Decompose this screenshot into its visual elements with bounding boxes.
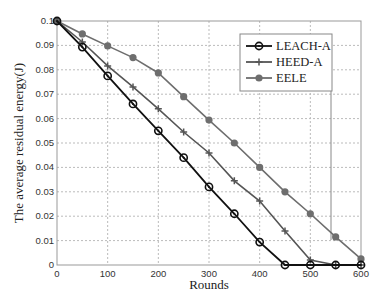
y-tick-label: 0.1 — [41, 15, 54, 26]
y-tick-label: 0.06 — [36, 113, 55, 124]
y-tick-label: 0.08 — [36, 64, 55, 75]
dot-marker-icon — [256, 164, 263, 171]
dot-marker-icon — [281, 188, 288, 195]
x-tick-label: 600 — [353, 268, 369, 279]
x-tick-label: 500 — [302, 268, 318, 279]
legend-label: EELE — [276, 71, 307, 85]
y-tick-label: 0 — [49, 259, 54, 270]
y-tick-label: 0.07 — [36, 88, 55, 99]
dot-marker-icon — [129, 54, 136, 61]
x-tick-label: 400 — [252, 268, 268, 279]
x-axis-label: Rounds — [189, 277, 229, 292]
x-tick-label: 0 — [54, 268, 59, 279]
line-chart: 00.010.020.030.040.050.060.070.080.090.1… — [0, 0, 389, 302]
y-axis-ticks: 00.010.020.030.040.050.060.070.080.090.1 — [36, 15, 55, 270]
dot-marker-icon — [180, 93, 187, 100]
y-axis-label: The average residual energy(J) — [11, 63, 26, 223]
x-tick-label: 200 — [150, 268, 166, 279]
dot-marker-icon — [255, 74, 262, 81]
y-tick-label: 0.01 — [36, 235, 55, 246]
dot-marker-icon — [307, 210, 314, 217]
y-tick-label: 0.09 — [36, 39, 55, 50]
dot-marker-icon — [155, 69, 162, 76]
y-tick-label: 0.02 — [36, 210, 55, 221]
y-tick-label: 0.03 — [36, 186, 55, 197]
y-tick-label: 0.05 — [36, 137, 55, 148]
legend: LEACH-AHEED-AEELE — [240, 34, 332, 91]
y-tick-label: 0.04 — [36, 161, 55, 172]
dot-marker-icon — [205, 116, 212, 123]
x-tick-label: 100 — [100, 268, 116, 279]
legend-label: LEACH-A — [276, 39, 331, 53]
dot-marker-icon — [104, 42, 111, 49]
dot-marker-icon — [231, 139, 238, 146]
dot-marker-icon — [79, 30, 86, 37]
legend-label: HEED-A — [276, 55, 323, 69]
dot-marker-icon — [332, 233, 339, 240]
